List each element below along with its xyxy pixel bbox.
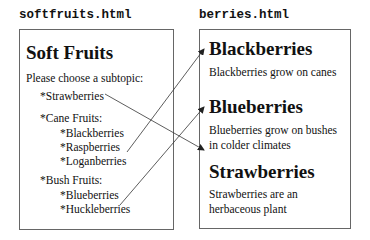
section-text-strawberries-2: herbaceous plant <box>209 202 287 217</box>
link-raspberries[interactable]: *Raspberries <box>60 140 120 155</box>
link-loganberries[interactable]: *Loganberries <box>60 154 126 169</box>
section-text-blueberries-2: in colder climates <box>209 138 291 153</box>
category-bush-fruits: *Bush Fruits: <box>40 173 102 188</box>
softfruits-page: Soft Fruits Please choose a subtopic: *S… <box>19 29 174 230</box>
page-title: Soft Fruits <box>26 42 113 64</box>
category-cane-fruits: *Cane Fruits: <box>40 111 102 126</box>
link-blackberries[interactable]: *Blackberries <box>60 126 124 141</box>
section-text-strawberries-1: Strawberries are an <box>209 187 298 202</box>
subtopic-prompt: Please choose a subtopic: <box>26 71 143 86</box>
left-filename: softfruits.html <box>19 8 132 22</box>
link-blueberries[interactable]: *Blueberries <box>60 188 119 203</box>
berries-page: Blackberries Blackberries grow on canes … <box>199 29 351 229</box>
section-title-blueberries: Blueberries <box>209 96 303 118</box>
section-title-blackberries: Blackberries <box>209 38 312 60</box>
right-filename: berries.html <box>199 8 289 22</box>
section-text-blueberries-1: Blueberries grow on bushes <box>209 123 337 138</box>
link-huckleberries[interactable]: *Huckleberries <box>60 202 130 217</box>
section-text-blackberries: Blackberries grow on canes <box>209 65 336 80</box>
section-title-strawberries: Strawberries <box>209 161 315 183</box>
link-strawberries[interactable]: *Strawberries <box>40 89 104 104</box>
